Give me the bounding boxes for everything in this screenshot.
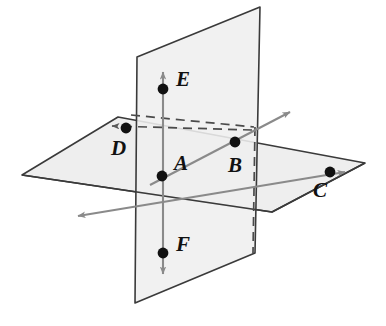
- label-E: E: [175, 67, 190, 91]
- point-D: [121, 123, 132, 134]
- label-C: C: [313, 178, 328, 202]
- label-D: D: [110, 136, 126, 160]
- point-F: [158, 248, 169, 259]
- label-F: F: [175, 232, 190, 256]
- geometry-figure: A B C D E F: [0, 0, 386, 326]
- label-B: B: [227, 153, 242, 177]
- point-B: [230, 137, 241, 148]
- diagram-canvas: A B C D E F: [0, 0, 386, 326]
- point-E: [158, 84, 169, 95]
- point-A: [157, 171, 168, 182]
- label-A: A: [172, 151, 188, 175]
- point-C: [325, 167, 336, 178]
